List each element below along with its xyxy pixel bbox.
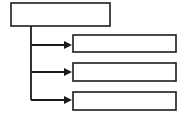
child-node-box-2[interactable] xyxy=(73,63,176,81)
child-node-box-3[interactable] xyxy=(73,92,176,110)
branch-connector-1 xyxy=(31,41,72,49)
flowchart-diagram xyxy=(0,0,185,120)
child-node-2[interactable] xyxy=(73,63,176,81)
branch-connector-3 xyxy=(31,96,72,104)
parent-node[interactable] xyxy=(11,3,110,26)
arrow-head-3 xyxy=(64,96,72,104)
parent-node-box[interactable] xyxy=(11,3,110,26)
child-node-3[interactable] xyxy=(73,92,176,110)
branch-connector-2 xyxy=(31,68,72,76)
flowchart-canvas xyxy=(0,0,185,120)
child-node-box-1[interactable] xyxy=(73,35,176,52)
arrow-head-1 xyxy=(64,41,72,49)
child-node-1[interactable] xyxy=(73,35,176,52)
arrow-head-2 xyxy=(64,68,72,76)
